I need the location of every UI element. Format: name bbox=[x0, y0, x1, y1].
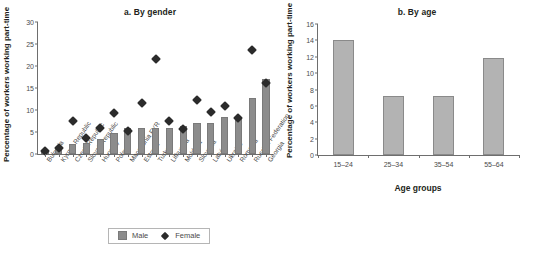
chart-b-x-tick-mark bbox=[519, 155, 520, 158]
chart-a-y-tick-mark bbox=[35, 44, 38, 45]
chart-b-x-tick-mark bbox=[469, 155, 470, 158]
chart-a-y-axis-label: Percentage of workers working part-time bbox=[2, 22, 12, 162]
chart-b-x-category-label: 25–34 bbox=[384, 161, 403, 168]
chart-a-marker-female bbox=[109, 108, 119, 118]
chart-b-y-tick-mark bbox=[315, 40, 318, 41]
chart-b-y-tick-mark bbox=[315, 73, 318, 74]
female-diamond-swatch-icon bbox=[161, 231, 169, 239]
chart-a-bar-male bbox=[97, 139, 104, 154]
legend-item-male: Male bbox=[118, 231, 148, 240]
chart-a-marker-female bbox=[247, 45, 257, 55]
chart-a-bar-male bbox=[69, 144, 76, 154]
chart-a-bar-male bbox=[262, 79, 269, 154]
chart-a-title: a. By gender bbox=[60, 7, 240, 17]
chart-a-marker-female bbox=[220, 101, 230, 111]
chart-a-bar-male bbox=[152, 128, 159, 154]
chart-b-x-axis-label: Age groups bbox=[317, 183, 519, 193]
chart-a-x-category-label: Slovak Republic bbox=[86, 159, 92, 163]
chart-a-marker-female bbox=[68, 116, 78, 126]
chart-a-bar-male bbox=[110, 133, 117, 154]
chart-b-y-tick-mark bbox=[315, 122, 318, 123]
chart-a-y-tick-mark bbox=[35, 88, 38, 89]
chart-a-bar-male bbox=[207, 123, 214, 154]
legend-item-female: Female bbox=[160, 231, 200, 240]
figure-container: a. By gender Percentage of workers worki… bbox=[0, 0, 542, 255]
chart-b-y-tick-mark bbox=[315, 105, 318, 106]
chart-a-y-tick-mark bbox=[35, 110, 38, 111]
chart-a-x-category-label: Slovenia bbox=[197, 159, 203, 163]
chart-a-x-category-label: Russian Federation bbox=[252, 159, 258, 163]
chart-a-bar-male bbox=[166, 128, 173, 154]
chart-a-bar-male bbox=[235, 119, 242, 154]
chart-b-x-tick-mark bbox=[368, 155, 369, 158]
chart-a-x-category-label: Macedonia FYR bbox=[128, 159, 134, 163]
chart-a-bar-male bbox=[138, 128, 145, 154]
chart-a-x-category-label: Estonia bbox=[142, 159, 148, 163]
legend-label-male: Male bbox=[132, 231, 148, 240]
chart-a-x-category-label: Czech Republic bbox=[73, 159, 79, 163]
chart-b-y-tick-mark bbox=[315, 24, 318, 25]
chart-a-x-category-label: Ukraine bbox=[225, 159, 231, 163]
chart-a-y-tick-mark bbox=[35, 66, 38, 67]
chart-a-x-category-label: Turkey bbox=[156, 159, 162, 163]
chart-a-marker-female bbox=[192, 95, 202, 105]
chart-b-y-axis-label: Percentage of workers working part-time bbox=[285, 28, 295, 158]
chart-a-x-category-label: Moldova bbox=[183, 159, 189, 163]
chart-a-x-category-label: Kyrgyz Republic bbox=[59, 159, 65, 163]
chart-a-x-category-label: Latvia bbox=[211, 159, 217, 163]
chart-b-x-category-label: 15–24 bbox=[333, 161, 352, 168]
male-square-swatch-icon bbox=[118, 231, 127, 240]
chart-b-bar bbox=[333, 40, 354, 155]
chart-b-x-tick-mark bbox=[419, 155, 420, 158]
chart-a-plot-area: 051015202530BulgariaKyrgyz RepublicCzech… bbox=[37, 22, 273, 155]
chart-a-marker-female bbox=[151, 54, 161, 64]
chart-a-x-category-label: Poland bbox=[114, 159, 120, 163]
chart-a-bar-male bbox=[221, 117, 228, 154]
chart-b-y-tick-mark bbox=[315, 89, 318, 90]
chart-panel-by-gender: a. By gender Percentage of workers worki… bbox=[0, 0, 282, 255]
chart-a-x-category-label: Hungary bbox=[100, 159, 106, 163]
chart-b-bar bbox=[433, 96, 454, 155]
chart-a-marker-female bbox=[137, 98, 147, 108]
chart-b-y-tick-mark bbox=[315, 138, 318, 139]
chart-b-x-category-label: 35–54 bbox=[434, 161, 453, 168]
chart-a-bar-male bbox=[249, 98, 256, 154]
chart-a-y-tick-mark bbox=[35, 154, 38, 155]
chart-a-x-category-label: Romania bbox=[238, 159, 244, 163]
chart-a-x-category-label: Bulgaria bbox=[45, 159, 51, 163]
chart-a-marker-female bbox=[164, 116, 174, 126]
chart-a-bar-male bbox=[83, 143, 90, 154]
legend-label-female: Female bbox=[175, 231, 200, 240]
chart-b-x-category-label: 55–64 bbox=[484, 161, 503, 168]
chart-a-marker-female bbox=[206, 107, 216, 117]
chart-b-title: b. By age bbox=[322, 7, 512, 17]
chart-b-y-tick-mark bbox=[315, 56, 318, 57]
chart-a-legend: Male Female bbox=[108, 228, 210, 244]
chart-b-bar bbox=[483, 58, 504, 155]
chart-a-y-tick-mark bbox=[35, 132, 38, 133]
chart-b-x-tick-mark bbox=[318, 155, 319, 158]
chart-a-y-tick-mark bbox=[35, 22, 38, 23]
chart-b-bar bbox=[383, 96, 404, 155]
chart-b-plot-area: 024681012141615–2425–3435–5455–64 bbox=[317, 24, 519, 156]
chart-a-x-category-label: Georgia bbox=[266, 159, 272, 163]
chart-a-bar-male bbox=[193, 123, 200, 154]
chart-a-x-category-label: Lithuania bbox=[169, 159, 175, 163]
